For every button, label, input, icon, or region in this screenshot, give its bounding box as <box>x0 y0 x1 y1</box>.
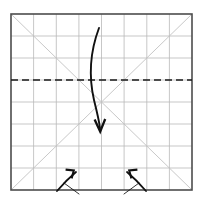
origami-diagram <box>0 0 203 202</box>
diagram-canvas <box>0 0 203 202</box>
